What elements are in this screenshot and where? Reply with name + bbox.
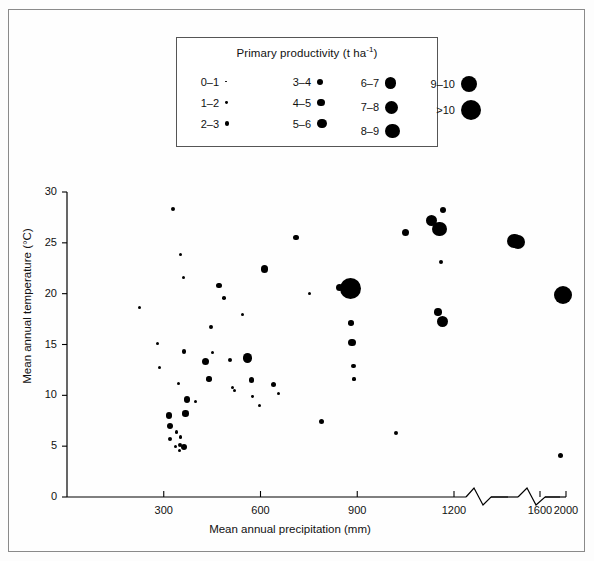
legend-entry-label: 9–10 [417,78,455,90]
legend-entry: 3–4 [277,71,343,92]
legend-entry-symbol [385,97,411,118]
legend-entry-symbol [225,92,251,113]
legend-entry-symbol [317,71,343,92]
legend-entry-label: 1–2 [185,97,219,109]
legend-entry: 2–3 [185,113,251,134]
legend-entry-symbol [225,71,251,92]
legend-entry-label: 2–3 [185,118,219,130]
legend-bubble-icon [317,99,325,107]
legend-entry: 9–10 [417,71,487,97]
legend-bubble-icon [225,81,227,83]
legend-column-3: 6–77–88–9 [345,71,411,143]
legend-entry-label: 6–7 [345,77,379,89]
legend-box: Primary productivity (t ha-1) 0–11–22–33… [176,37,438,147]
legend-bubble-icon [317,79,323,85]
legend-entry-label: 0–1 [185,76,219,88]
legend-column-4: 9–10>10 [417,71,487,123]
legend-entry-symbol [461,100,487,121]
legend-bubble-icon [317,119,327,129]
legend-entry: 7–8 [345,95,411,119]
legend-bubble-icon [385,101,398,114]
legend-entry-label: >10 [417,104,455,116]
legend-entry: 1–2 [185,92,251,113]
legend-entry-symbol [317,92,343,113]
legend-entry-symbol [317,113,343,134]
legend-column-1: 0–11–22–3 [185,71,251,134]
legend-entry-symbol [461,74,487,95]
legend-column-2: 3–44–55–6 [277,71,343,134]
legend-entry-label: 8–9 [345,125,379,137]
legend-entry: 6–7 [345,71,411,95]
legend-entry: 5–6 [277,113,343,134]
legend-entry-symbol [385,73,411,94]
legend-bubble-icon [385,124,400,139]
legend-title-main: Primary productivity (t ha [236,47,366,59]
legend-title: Primary productivity (t ha-1) [177,45,437,59]
legend-entry: >10 [417,97,487,123]
legend-entry-label: 3–4 [277,76,311,88]
legend-entry-symbol [225,113,251,134]
legend-entry-label: 4–5 [277,97,311,109]
legend-bubble-icon [461,100,481,120]
legend-bubble-icon [385,77,396,88]
legend-bubble-icon [461,76,477,92]
legend-entry-symbol [385,121,411,142]
legend-bubble-icon [225,121,229,125]
legend-entry: 8–9 [345,119,411,143]
legend-entry: 4–5 [277,92,343,113]
legend-entry-label: 5–6 [277,118,311,130]
legend-title-exponent: -1 [366,45,373,54]
figure-page: Primary productivity (t ha-1) 0–11–22–33… [0,0,594,561]
legend-entry-label: 7–8 [345,101,379,113]
legend-bubble-icon [225,101,228,104]
legend-entry: 0–1 [185,71,251,92]
legend-title-tail: ) [374,47,378,59]
